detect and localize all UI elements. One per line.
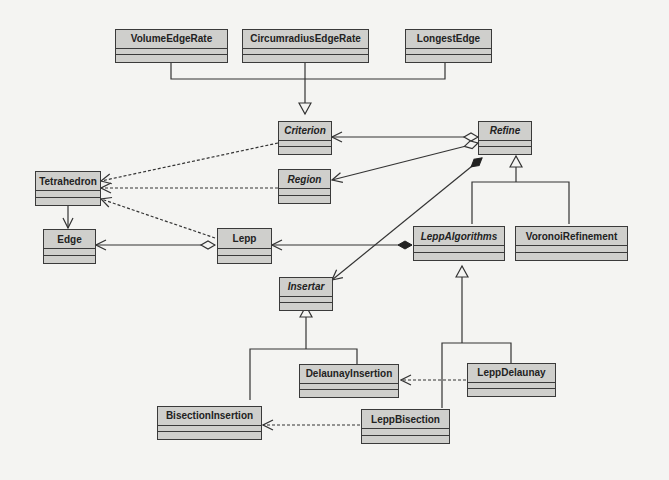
class-name: Insertar [280,278,332,297]
class-name: LeppAlgorithms [414,227,504,246]
class-region: Region [278,169,331,204]
class-volume-edge-rate: VolumeEdgeRate [115,29,228,63]
class-name: VoronoiRefinement [516,227,627,246]
class-insertar: Insertar [279,277,333,311]
class-name: Tetrahedron [36,172,100,191]
class-name: BisectionInsertion [158,407,261,426]
class-name: Region [279,170,330,189]
class-name: CircumradiusEdgeRate [243,30,368,49]
class-tetrahedron: Tetrahedron [35,171,101,206]
class-lepp-bisection: LeppBisection [361,409,450,444]
class-name: Refine [479,122,531,141]
class-lepp-algorithms: LeppAlgorithms [413,226,505,261]
class-bisection-insertion: BisectionInsertion [157,406,262,440]
class-name: LeppDelaunay [468,364,555,383]
class-criterion: Criterion [278,121,332,155]
class-name: LongestEdge [406,30,491,49]
class-circumradius-edge-rate: CircumradiusEdgeRate [242,29,369,63]
class-name: VolumeEdgeRate [116,30,227,49]
class-edge: Edge [43,229,96,264]
class-delaunay-insertion: DelaunayInsertion [299,364,399,398]
class-voronoi-refinement: VoronoiRefinement [515,226,628,261]
class-refine: Refine [478,121,532,155]
class-name: Lepp [218,229,271,249]
class-longest-edge: LongestEdge [405,29,492,63]
class-lepp: Lepp [217,228,272,264]
class-name: Criterion [279,122,331,141]
class-name: Edge [44,230,95,249]
class-lepp-delaunay: LeppDelaunay [467,363,556,397]
class-name: DelaunayInsertion [300,365,398,384]
class-name: LeppBisection [362,410,449,429]
